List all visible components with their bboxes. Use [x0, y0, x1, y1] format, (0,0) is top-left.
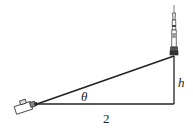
angle-label: θ [81, 90, 87, 103]
height-label: h [178, 76, 185, 89]
hypotenuse [37, 56, 174, 104]
triangle [37, 56, 174, 104]
base-label: 2 [103, 112, 110, 125]
diagram-canvas [0, 0, 193, 129]
rocket-icon [170, 5, 178, 55]
camera-icon [14, 99, 37, 114]
